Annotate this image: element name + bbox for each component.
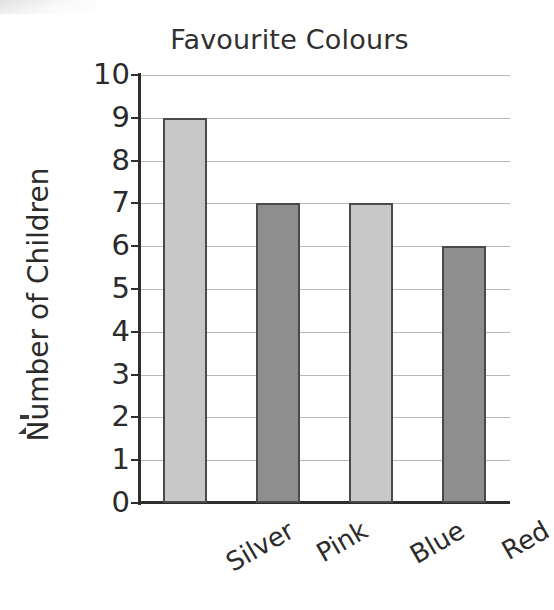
- x-axis-label-pink: Pink: [311, 515, 373, 568]
- y-axis-tick-label: 5: [60, 274, 130, 303]
- y-axis-tick-label: 0: [60, 488, 130, 517]
- y-axis-tick-label: 6: [60, 231, 130, 260]
- y-axis-tick-label: 4: [60, 317, 130, 346]
- bar-blue: [349, 203, 393, 503]
- x-axis-label-blue: Blue: [404, 515, 469, 570]
- y-axis-tick-mark: [131, 331, 139, 333]
- y-axis-tick-label: 3: [60, 360, 130, 389]
- y-axis-tick-label: 10: [60, 60, 130, 89]
- y-axis-tick-mark: [131, 502, 139, 504]
- x-axis-label-silver: Silver: [220, 515, 298, 577]
- y-axis-tick-label: 7: [60, 188, 130, 217]
- gridline: [138, 75, 510, 76]
- y-axis-tick-mark: [131, 288, 139, 290]
- y-axis-tick-label: 2: [60, 402, 130, 431]
- y-axis-tick-mark: [131, 160, 139, 162]
- y-axis-tick-mark: [131, 117, 139, 119]
- y-axis-tick-label: 8: [60, 146, 130, 175]
- y-axis-tick-label: 9: [60, 103, 130, 132]
- y-axis-tick-label: 1: [60, 445, 130, 474]
- y-axis-tick-mark: [131, 416, 139, 418]
- bar-pink: [256, 203, 300, 503]
- x-axis-label-red: Red: [496, 515, 554, 566]
- y-axis-tick-mark: [131, 245, 139, 247]
- y-axis-tick-mark: [131, 74, 139, 76]
- y-axis-tick-labels: 109876543210: [52, 0, 130, 610]
- y-axis-title: Number of Children: [22, 140, 55, 470]
- y-axis-tick-mark: [131, 374, 139, 376]
- bar-silver: [163, 118, 207, 503]
- y-axis-tick-mark: [131, 459, 139, 461]
- bar-red: [442, 246, 486, 503]
- y-axis-tick-mark: [131, 202, 139, 204]
